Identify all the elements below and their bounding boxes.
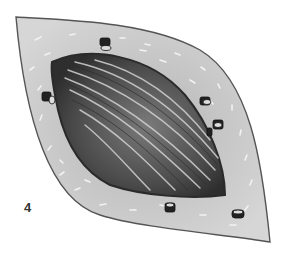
surgical-illustration <box>0 0 286 256</box>
clamp-icon <box>207 128 212 136</box>
clamp-icon <box>100 38 111 51</box>
clamp-icon <box>200 97 211 105</box>
clamp-icon <box>232 210 244 218</box>
clamp-icon <box>213 120 223 129</box>
clamp-icon <box>165 203 175 212</box>
figure-label: 4 <box>24 200 31 215</box>
